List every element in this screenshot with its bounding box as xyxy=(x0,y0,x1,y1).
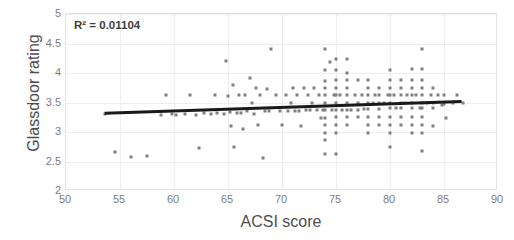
data-point xyxy=(335,132,338,135)
data-point xyxy=(324,139,327,142)
data-point xyxy=(389,146,392,149)
data-point xyxy=(345,57,348,60)
data-point xyxy=(324,123,327,126)
data-point xyxy=(389,79,392,82)
data-point xyxy=(216,111,219,114)
data-point xyxy=(270,48,273,51)
data-point xyxy=(367,107,370,110)
data-point xyxy=(425,101,428,104)
data-point xyxy=(235,111,238,114)
data-point xyxy=(399,94,402,97)
data-point xyxy=(229,110,232,113)
data-point xyxy=(345,123,348,126)
gridline-horizontal xyxy=(66,73,496,74)
data-point xyxy=(203,111,206,114)
data-point xyxy=(239,111,242,114)
data-point xyxy=(248,76,251,79)
y-axis-tick-label: 2.5 xyxy=(35,155,61,167)
data-point xyxy=(319,117,322,120)
data-point xyxy=(410,101,413,104)
data-point xyxy=(356,101,359,104)
data-point xyxy=(268,110,271,113)
data-point xyxy=(300,125,303,128)
data-point xyxy=(233,146,236,149)
data-point xyxy=(389,115,392,118)
data-point xyxy=(328,61,331,64)
data-point xyxy=(170,113,173,116)
data-point xyxy=(345,79,348,82)
data-point xyxy=(265,87,268,90)
data-point xyxy=(345,108,348,111)
r-squared-annotation: R² = 0.01104 xyxy=(74,19,140,31)
data-point xyxy=(335,79,338,82)
data-point xyxy=(285,94,288,97)
data-point xyxy=(311,101,314,104)
data-point xyxy=(421,94,424,97)
data-point xyxy=(335,101,338,104)
data-point xyxy=(421,86,424,89)
data-point xyxy=(345,72,348,75)
data-point xyxy=(350,108,353,111)
data-point xyxy=(315,109,318,112)
data-point xyxy=(335,153,338,156)
data-point xyxy=(410,106,413,109)
data-point xyxy=(183,113,186,116)
data-point xyxy=(378,107,381,110)
data-point xyxy=(324,131,327,134)
data-point xyxy=(296,94,299,97)
data-point xyxy=(324,79,327,82)
data-point xyxy=(410,86,413,89)
data-point xyxy=(345,101,348,104)
data-point xyxy=(462,101,465,104)
x-axis-tick-label: 70 xyxy=(266,193,296,205)
data-point xyxy=(421,106,424,109)
data-point xyxy=(324,101,327,104)
gridline-horizontal xyxy=(66,132,496,133)
x-axis-tick-label: 85 xyxy=(428,193,458,205)
data-point xyxy=(406,94,409,97)
data-point xyxy=(146,154,149,157)
data-point xyxy=(194,113,197,116)
x-axis-tick-label: 50 xyxy=(50,193,80,205)
data-point xyxy=(356,108,359,111)
data-point xyxy=(278,110,281,113)
x-axis-tick-label: 90 xyxy=(482,193,512,205)
data-point xyxy=(378,86,381,89)
data-point xyxy=(335,86,338,89)
data-point xyxy=(274,94,277,97)
data-point xyxy=(399,79,402,82)
scatter-chart: Glassdoor rating 22.533.544.55 R² = 0.01… xyxy=(0,0,514,240)
data-point xyxy=(410,68,413,71)
data-point xyxy=(291,87,294,90)
data-point xyxy=(389,69,392,72)
x-axis-tick-label: 80 xyxy=(374,193,404,205)
data-point xyxy=(345,116,348,119)
data-point xyxy=(373,94,376,97)
data-point xyxy=(399,86,402,89)
data-point xyxy=(432,106,435,109)
data-point xyxy=(356,79,359,82)
data-point xyxy=(250,101,253,104)
data-point xyxy=(293,109,296,112)
data-point xyxy=(324,94,327,97)
data-point xyxy=(113,151,116,154)
data-point xyxy=(421,79,424,82)
data-point xyxy=(399,123,402,126)
data-point xyxy=(341,108,344,111)
data-point xyxy=(410,94,413,97)
data-point xyxy=(395,107,398,110)
data-point xyxy=(399,101,402,104)
data-point xyxy=(404,101,407,104)
data-point xyxy=(304,109,307,112)
data-point xyxy=(263,110,266,113)
data-point xyxy=(451,101,454,104)
y-axis-tick-label: 5 xyxy=(35,7,61,19)
gridline-vertical xyxy=(282,14,283,189)
data-point xyxy=(455,94,458,97)
data-point xyxy=(281,123,284,126)
data-point xyxy=(324,116,327,119)
data-point xyxy=(410,123,413,126)
data-point xyxy=(261,156,264,159)
data-point xyxy=(313,86,316,89)
data-point xyxy=(339,94,342,97)
